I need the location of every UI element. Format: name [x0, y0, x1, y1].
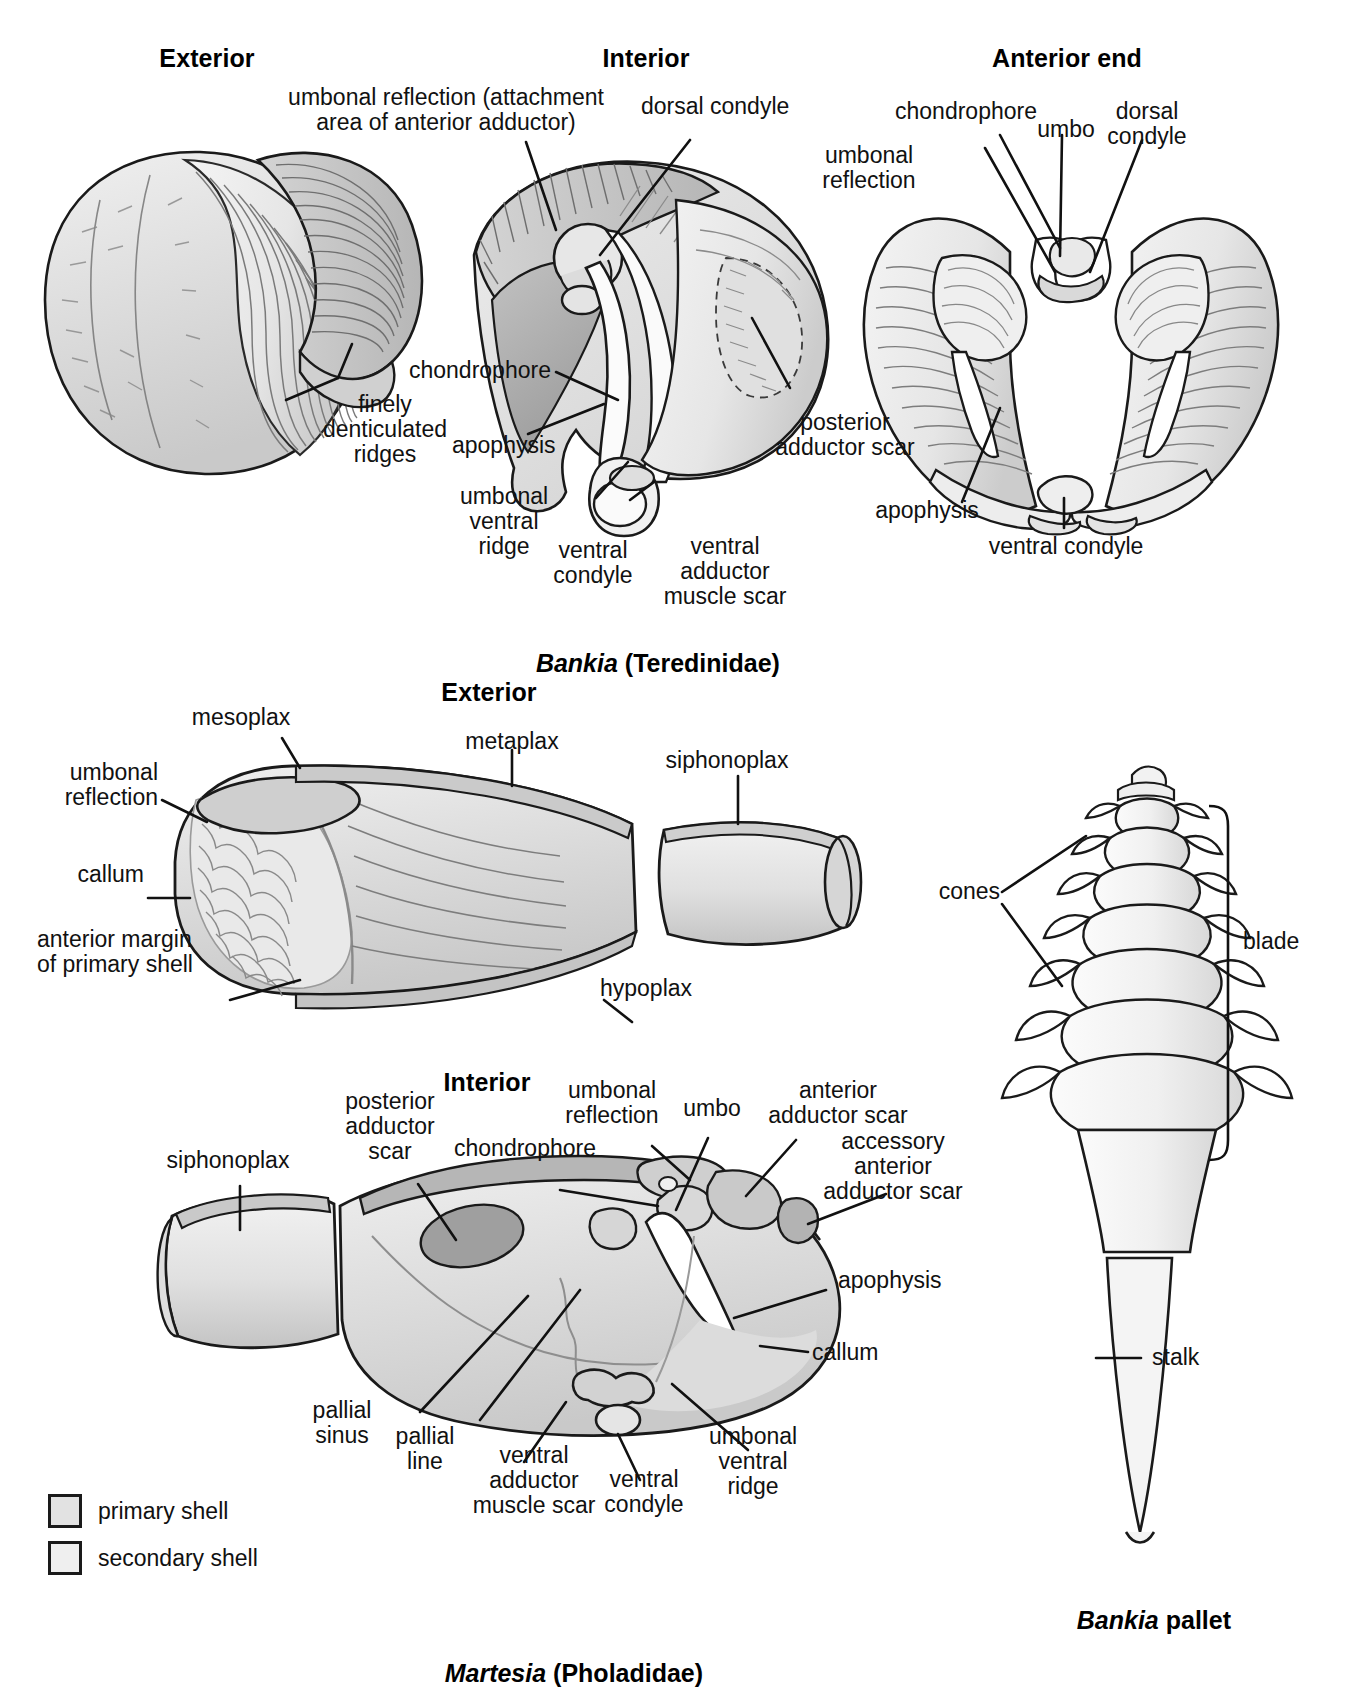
label-mi-callum: callum: [812, 1340, 878, 1365]
legend-item-primary-shell: primary shell: [48, 1494, 258, 1528]
label-anterior-dorsal-condyle: dorsal condyle: [1107, 99, 1186, 149]
caption-genus-martesia: Martesia: [445, 1659, 546, 1687]
bankia-pallet-art: [1002, 767, 1292, 1543]
label-mi-pallial-sinus: pallial sinus: [313, 1398, 372, 1448]
label-mi-umbo: umbo: [683, 1096, 741, 1121]
label-blade: blade: [1243, 929, 1299, 954]
label-finely-denticulated-ridges: finely denticulated ridges: [323, 392, 447, 466]
caption-genus-bankia-pallet: Bankia: [1077, 1606, 1159, 1634]
heading-martesia-interior: Interior: [444, 1068, 531, 1097]
label-anterior-margin-primary-shell: anterior margin of primary shell: [37, 927, 193, 977]
label-mi-ventral-adductor-muscle-scar: ventral adductor muscle scar: [473, 1443, 596, 1517]
label-anterior-apophysis: apophysis: [875, 498, 979, 523]
caption-pallet-word: pallet: [1159, 1606, 1231, 1634]
label-mex-callum: callum: [78, 862, 144, 887]
label-stalk: stalk: [1152, 1345, 1199, 1370]
legend-label-primary-shell: primary shell: [98, 1498, 228, 1525]
label-mex-umbonal-reflection: umbonal reflection: [65, 760, 158, 810]
label-mi-umbonal-reflection: umbonal reflection: [565, 1078, 658, 1128]
heading-bankia-anterior-end: Anterior end: [992, 44, 1142, 73]
label-hypoplax: hypoplax: [600, 976, 692, 1001]
legend-item-secondary-shell: secondary shell: [48, 1541, 258, 1575]
caption-bankia-pallet: Bankia pallet: [1049, 1577, 1231, 1664]
label-mi-ventral-condyle: ventral condyle: [604, 1467, 683, 1517]
label-umbonal-reflection-attachment: umbonal reflection (attachment area of a…: [288, 85, 604, 135]
label-anterior-chondrophore: chondrophore: [895, 99, 1037, 124]
label-mi-umbonal-ventral-ridge: umbonal ventral ridge: [709, 1424, 797, 1498]
label-chondrophore: chondrophore: [409, 358, 551, 383]
label-mi-posterior-adductor-scar: posterior adductor scar: [345, 1089, 435, 1163]
martesia-exterior-art: [148, 738, 861, 1022]
label-mi-anterior-adductor-scar: anterior adductor scar: [768, 1078, 907, 1128]
heading-bankia-interior: Interior: [603, 44, 690, 73]
label-umbonal-ventral-ridge: umbonal ventral ridge: [460, 484, 548, 558]
bankia-anterior-end-art: [864, 135, 1278, 534]
swatch-secondary-shell: [48, 1541, 82, 1575]
caption-family-teredinidae: (Teredinidae): [618, 649, 780, 677]
caption-genus-bankia: Bankia: [536, 649, 618, 677]
heading-bankia-exterior: Exterior: [159, 44, 254, 73]
label-mi-chondrophore: chondrophore: [454, 1136, 596, 1161]
label-ventral-condyle: ventral condyle: [553, 538, 632, 588]
legend: primary shell secondary shell: [48, 1494, 258, 1588]
label-anterior-umbonal-reflection: umbonal reflection: [822, 143, 915, 193]
caption-bankia-teredinidae: Bankia (Teredinidae): [508, 620, 780, 707]
bankia-interior-art: [474, 140, 828, 536]
label-mex-siphonoplax: siphonoplax: [666, 748, 789, 773]
label-anterior-ventral-condyle: ventral condyle: [989, 534, 1144, 559]
label-anterior-umbo: umbo: [1037, 117, 1095, 142]
label-mi-accessory-anterior-adductor: accessory anterior adductor scar: [823, 1129, 962, 1203]
caption-martesia-pholadidae: Martesia (Pholadidae): [417, 1630, 703, 1691]
label-mi-siphonoplax: siphonoplax: [167, 1148, 290, 1173]
swatch-primary-shell: [48, 1494, 82, 1528]
legend-label-secondary-shell: secondary shell: [98, 1545, 258, 1572]
label-posterior-adductor-scar: posterior adductor scar: [775, 410, 914, 460]
label-mi-apophysis: apophysis: [838, 1268, 942, 1293]
label-dorsal-condyle: dorsal condyle: [641, 94, 789, 119]
label-cones: cones: [939, 879, 1000, 904]
label-mesoplax: mesoplax: [192, 705, 290, 730]
caption-family-pholadidae: (Pholadidae): [546, 1659, 703, 1687]
label-mi-pallial-line: pallial line: [396, 1424, 455, 1474]
label-metaplax: metaplax: [465, 729, 558, 754]
label-ventral-adductor-muscle-scar: ventral adductor muscle scar: [664, 534, 787, 608]
label-apophysis: apophysis: [452, 433, 556, 458]
